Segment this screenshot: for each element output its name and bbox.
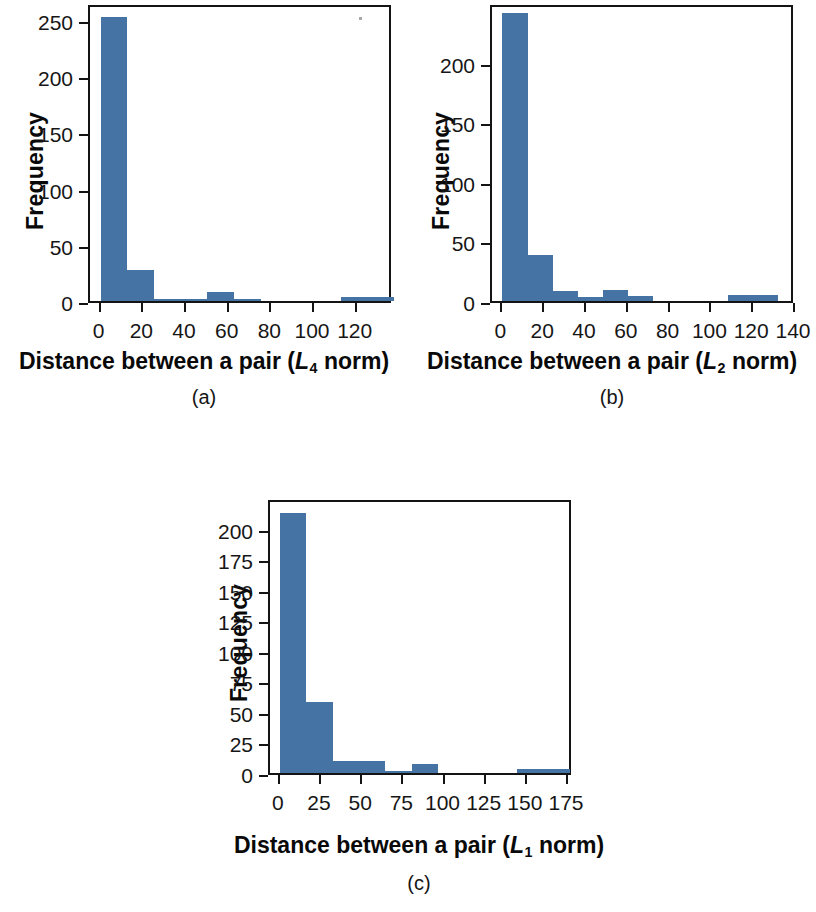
panel-c-norm-subscript: 1 bbox=[524, 844, 532, 860]
x-axis-tick bbox=[269, 303, 271, 312]
x-axis-tick-label: 175 bbox=[531, 792, 601, 813]
y-axis-tick bbox=[259, 744, 268, 746]
y-axis-tick bbox=[79, 191, 88, 193]
panel-b-norm-symbol: L bbox=[703, 348, 717, 374]
y-axis-tick-label: 150 bbox=[11, 124, 73, 145]
panel-b-caption: (b) bbox=[408, 386, 816, 409]
y-axis-tick bbox=[259, 592, 268, 594]
x-axis-tick bbox=[668, 303, 670, 312]
panel-a-norm-subscript: 4 bbox=[309, 360, 317, 376]
panel-a-x-axis-title: Distance between a pair (L4 norm) bbox=[0, 348, 408, 375]
y-axis-tick bbox=[259, 775, 268, 777]
panel-c-caption: (c) bbox=[199, 872, 639, 895]
x-axis-tick-label: 140 bbox=[758, 320, 816, 341]
x-axis-tick bbox=[484, 775, 486, 784]
y-axis-tick-label: 0 bbox=[191, 765, 253, 786]
y-axis-tick-label: 0 bbox=[11, 293, 73, 314]
panel-c-norm-symbol: L bbox=[510, 832, 524, 858]
y-axis-tick bbox=[79, 247, 88, 249]
panel-a-norm-symbol: L bbox=[295, 348, 309, 374]
y-axis-tick-label: 25 bbox=[191, 734, 253, 755]
panel-c-x-axis-title-prefix: Distance between a pair ( bbox=[234, 832, 510, 858]
panel-b-norm-subscript: 2 bbox=[717, 360, 725, 376]
panel-a-caption: (a) bbox=[0, 386, 408, 409]
x-axis-tick-label: 120 bbox=[320, 320, 390, 341]
panel-b-x-axis-title: Distance between a pair (L2 norm) bbox=[408, 348, 816, 375]
x-axis-tick bbox=[542, 303, 544, 312]
y-axis-tick bbox=[481, 124, 490, 126]
x-axis-tick bbox=[401, 775, 403, 784]
y-axis-tick bbox=[481, 65, 490, 67]
y-axis-tick-label: 100 bbox=[413, 174, 475, 195]
y-axis-tick bbox=[79, 134, 88, 136]
x-axis-tick bbox=[278, 775, 280, 784]
y-axis-tick-label: 125 bbox=[191, 612, 253, 633]
panel-c: Frequency 025507510012515017520002550751… bbox=[204, 480, 644, 900]
y-axis-tick-label: 250 bbox=[11, 12, 73, 33]
panel-b: Frequency 050100150200020406080100120140… bbox=[408, 0, 816, 420]
y-axis-tick bbox=[259, 653, 268, 655]
y-axis-tick-label: 75 bbox=[191, 673, 253, 694]
y-axis-tick-label: 50 bbox=[413, 233, 475, 254]
x-axis-tick bbox=[360, 775, 362, 784]
y-axis-tick bbox=[259, 714, 268, 716]
figure-histograms-distance-distributions: Frequency 050100150200250020406080100120… bbox=[0, 0, 816, 912]
y-axis-tick-label: 200 bbox=[413, 55, 475, 76]
y-axis-tick-label: 0 bbox=[413, 293, 475, 314]
x-axis-tick bbox=[319, 775, 321, 784]
y-axis-tick-label: 200 bbox=[191, 521, 253, 542]
x-axis-tick bbox=[626, 303, 628, 312]
x-axis-tick bbox=[99, 303, 101, 312]
x-axis-tick bbox=[184, 303, 186, 312]
y-axis-tick-label: 150 bbox=[191, 582, 253, 603]
y-axis-tick bbox=[259, 683, 268, 685]
y-axis-tick-label: 100 bbox=[191, 643, 253, 664]
x-axis-tick bbox=[566, 775, 568, 784]
y-axis-tick bbox=[259, 561, 268, 563]
x-axis-tick bbox=[443, 775, 445, 784]
y-axis-tick-label: 50 bbox=[191, 704, 253, 725]
y-axis-tick bbox=[481, 184, 490, 186]
y-axis-tick bbox=[79, 78, 88, 80]
y-axis-tick bbox=[79, 22, 88, 24]
y-axis-tick-label: 200 bbox=[11, 68, 73, 89]
x-axis-tick bbox=[500, 303, 502, 312]
x-axis-tick bbox=[793, 303, 795, 312]
panel-a: Frequency 050100150200250020406080100120… bbox=[0, 0, 408, 420]
y-axis-tick-label: 50 bbox=[11, 237, 73, 258]
panel-c-x-axis-title: Distance between a pair (L1 norm) bbox=[199, 832, 639, 859]
y-axis-tick bbox=[259, 531, 268, 533]
x-axis-tick bbox=[141, 303, 143, 312]
x-axis-tick bbox=[584, 303, 586, 312]
y-axis-tick bbox=[481, 303, 490, 305]
panel-c-x-axis-title-suffix: norm) bbox=[533, 832, 605, 858]
x-axis-tick bbox=[227, 303, 229, 312]
x-axis-tick bbox=[709, 303, 711, 312]
x-axis-tick bbox=[751, 303, 753, 312]
panel-a-x-axis-title-suffix: norm) bbox=[318, 348, 390, 374]
x-axis-tick bbox=[355, 303, 357, 312]
y-axis-tick bbox=[79, 303, 88, 305]
panel-b-x-axis-title-prefix: Distance between a pair ( bbox=[427, 348, 703, 374]
x-axis-tick bbox=[525, 775, 527, 784]
y-axis-tick-label: 175 bbox=[191, 551, 253, 572]
panel-b-x-axis-title-suffix: norm) bbox=[726, 348, 798, 374]
y-axis-tick bbox=[259, 622, 268, 624]
y-axis-tick-label: 100 bbox=[11, 181, 73, 202]
y-axis-tick bbox=[481, 243, 490, 245]
x-axis-tick bbox=[312, 303, 314, 312]
panel-a-x-axis-title-prefix: Distance between a pair ( bbox=[19, 348, 295, 374]
y-axis-tick-label: 150 bbox=[413, 114, 475, 135]
